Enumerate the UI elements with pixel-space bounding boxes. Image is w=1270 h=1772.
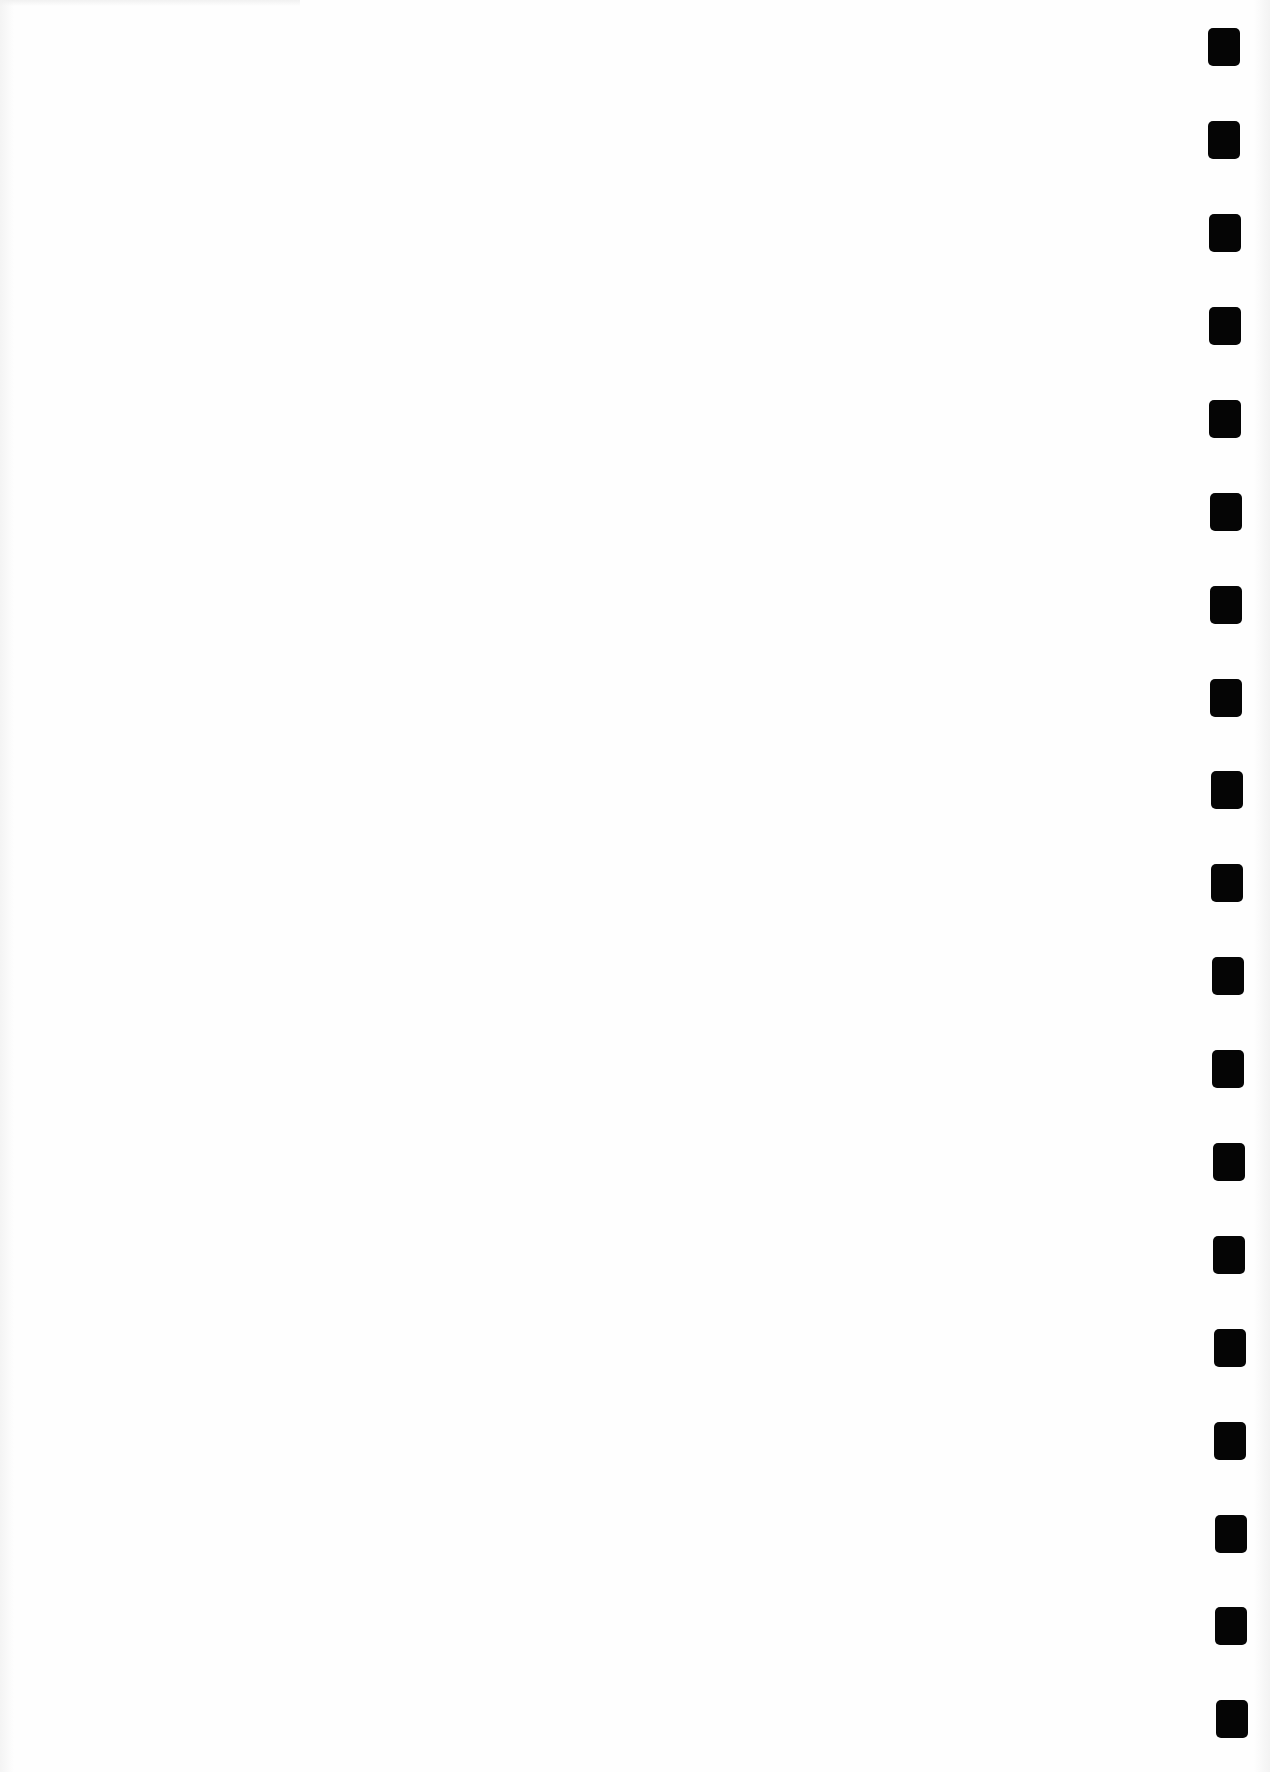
scanned-page <box>0 0 1270 1772</box>
punch-hole <box>1210 679 1242 717</box>
punch-hole <box>1209 307 1241 345</box>
punch-hole <box>1215 1515 1247 1553</box>
punch-hole <box>1213 1236 1245 1274</box>
punch-hole <box>1208 121 1240 159</box>
punch-hole <box>1212 957 1244 995</box>
punch-hole <box>1216 1700 1248 1738</box>
punch-hole <box>1209 214 1241 252</box>
punch-hole <box>1210 493 1242 531</box>
punch-hole <box>1209 400 1241 438</box>
punch-hole <box>1214 1329 1246 1367</box>
page-edge-shadow-top <box>0 0 300 6</box>
page-edge-shadow-right <box>1254 0 1270 1772</box>
punch-hole <box>1215 1607 1247 1645</box>
punch-hole <box>1211 864 1243 902</box>
punch-hole <box>1212 1050 1244 1088</box>
punch-hole <box>1208 28 1240 66</box>
punch-hole <box>1214 1422 1246 1460</box>
punch-hole <box>1211 771 1243 809</box>
punch-hole <box>1210 586 1242 624</box>
page-edge-shadow-left <box>0 0 14 1772</box>
punch-hole <box>1213 1143 1245 1181</box>
